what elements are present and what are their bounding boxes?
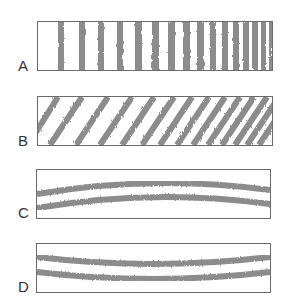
panel-label-c: C	[18, 205, 29, 220]
arched-bands-graphic	[37, 170, 270, 218]
panel-label-d: D	[18, 279, 29, 294]
panel-label-a: A	[18, 58, 28, 73]
sagging-bands-graphic	[37, 244, 270, 292]
panel-d-sagging-bands	[36, 243, 271, 293]
panel-label-b: B	[18, 133, 28, 148]
panel-a-vertical-fringes	[37, 21, 273, 71]
panel-c-arched-bands	[36, 169, 271, 219]
vertical-stripes-graphic	[38, 22, 272, 70]
panel-b-diagonal-fringes	[37, 96, 273, 146]
diagonal-stripes-graphic	[38, 97, 272, 145]
